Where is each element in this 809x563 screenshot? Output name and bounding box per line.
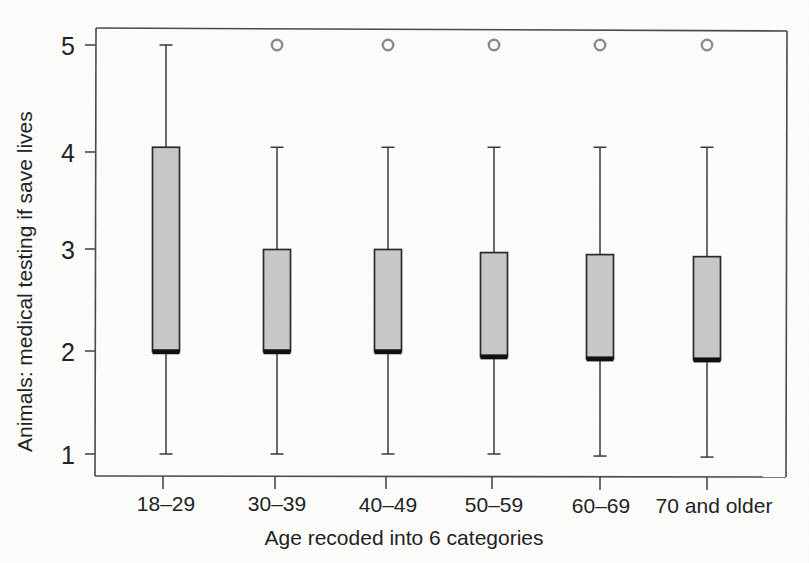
outlier-3-0	[489, 40, 499, 50]
y-tick-label-1: 1	[61, 441, 75, 469]
boxplot-group-0	[153, 45, 180, 454]
y-axis-ticks	[85, 45, 96, 454]
y-tick-label-2: 2	[61, 338, 75, 366]
y-tick-label-5: 5	[61, 32, 75, 60]
x-tick-label-1: 30–39	[248, 492, 306, 515]
frame-right	[786, 31, 787, 477]
x-tick-label-5: 70 and older	[656, 494, 773, 517]
frame-top	[96, 28, 787, 31]
outlier-4-0	[595, 40, 605, 50]
plot-frame	[95, 28, 787, 477]
boxplot-series	[153, 40, 721, 457]
x-tick-label-0: 18–29	[137, 492, 195, 515]
y-axis-title: Animals: medical testing if save lives	[13, 111, 36, 452]
boxplot-group-3	[481, 40, 508, 454]
boxplot-group-1	[264, 40, 291, 454]
outlier-5-0	[702, 40, 712, 50]
x-axis-tick-labels: 18–29 30–39 40–49 50–59 60–69 70 and old…	[137, 492, 773, 517]
boxplot-group-5	[694, 40, 721, 457]
frame-left	[95, 28, 96, 476]
x-tick-label-2: 40–49	[359, 493, 417, 516]
x-tick-label-3: 50–59	[465, 493, 523, 516]
frame-bottom	[95, 476, 786, 477]
boxplot-group-4	[587, 40, 614, 456]
boxplot-figure: 5 4 3 2 1 Animals: medical testing if sa…	[0, 0, 809, 563]
box-0	[153, 147, 180, 352]
box-2	[375, 250, 402, 352]
y-tick-label-3: 3	[61, 236, 75, 264]
x-tick-label-4: 60–69	[572, 494, 630, 517]
x-axis-title: Age recoded into 6 categories	[264, 526, 543, 549]
box-3	[481, 253, 508, 357]
y-axis-tick-labels: 5 4 3 2 1	[61, 32, 75, 469]
box-5	[694, 257, 721, 360]
outlier-1-0	[272, 40, 282, 50]
box-4	[587, 255, 614, 359]
x-axis-ticks	[163, 476, 707, 490]
boxplot-canvas: 5 4 3 2 1 Animals: medical testing if sa…	[0, 0, 809, 563]
y-tick-label-4: 4	[61, 139, 75, 167]
boxplot-group-2	[375, 40, 402, 454]
outlier-2-0	[383, 40, 393, 50]
box-1	[264, 250, 291, 352]
